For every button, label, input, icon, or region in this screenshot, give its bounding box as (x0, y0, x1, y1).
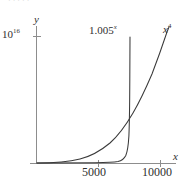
curve-label-exponential: 1.005x (89, 25, 117, 36)
x-axis-tick-label-5000: 5000 (82, 166, 106, 178)
exp-base: 1.005 (89, 24, 114, 36)
curve-1-005-pow-x (37, 37, 130, 163)
x-axis-label: x (173, 151, 178, 162)
y-axis-tick-label-1e16: 1016 (2, 29, 20, 40)
curve-x-pow-4 (37, 27, 169, 163)
y-tick-mantissa: 10 (2, 28, 13, 40)
y-tick-exponent: 16 (13, 27, 20, 34)
y-axis-label: y (34, 14, 39, 25)
curve-label-power: x4 (163, 24, 171, 35)
figure-container: · · · · · y x 1016 1.005x x4 5000 10000 (0, 0, 191, 187)
pow-exponent: 4 (168, 22, 171, 29)
exp-exponent: x (114, 23, 117, 30)
x-axis-tick-label-10000: 10000 (142, 166, 172, 178)
